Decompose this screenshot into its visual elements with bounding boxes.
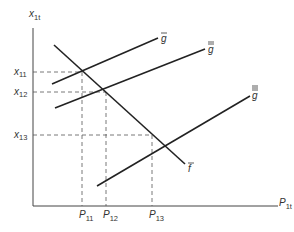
y-tick-x13: x13	[13, 129, 27, 142]
curve-label-f: f	[188, 163, 194, 174]
svg-text:f: f	[188, 163, 192, 174]
svg-text:g: g	[161, 33, 167, 44]
svg-text:g: g	[208, 44, 214, 55]
x-tick-p11: P11	[79, 209, 93, 223]
curve-label-g3: g	[252, 86, 258, 101]
curve-g3	[97, 96, 250, 186]
curve-g2	[55, 49, 205, 108]
curve-label-g2: g	[208, 42, 214, 55]
y-axis-label: x1t	[28, 8, 41, 22]
y-tick-x12: x12	[13, 86, 27, 99]
supply-demand-diagram: x1t P1t g g g f x11 x12 x13 P11 P12 P13	[0, 0, 294, 232]
x-axis-label: P1t	[279, 197, 293, 211]
dashed-guides	[33, 72, 152, 206]
curve-g1	[52, 38, 158, 84]
curve-label-g1: g	[161, 33, 167, 44]
x-tick-p12: P12	[103, 209, 118, 223]
svg-text:g: g	[252, 90, 258, 101]
x-tick-p13: P13	[149, 209, 164, 223]
y-tick-x11: x11	[13, 66, 27, 79]
